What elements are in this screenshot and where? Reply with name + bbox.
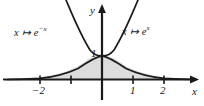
figure-exponential-curves: 1 −2 1 2 x y x ↦ e−x x ↦ ex bbox=[0, 0, 204, 106]
x-tick-label-2: 2 bbox=[160, 84, 166, 96]
y-axis-arrowhead bbox=[98, 4, 106, 13]
right-curve-annotation-base: x ↦ e bbox=[122, 26, 147, 37]
left-curve-annotation: x ↦ e−x bbox=[14, 25, 47, 38]
x-axis-label: x bbox=[192, 85, 197, 97]
left-curve-annotation-exponent: −x bbox=[39, 25, 47, 33]
y-intercept-label: 1 bbox=[91, 47, 97, 59]
x-tick-label-1: 1 bbox=[130, 84, 136, 96]
plot-canvas bbox=[0, 0, 204, 106]
left-curve-annotation-base: x ↦ e bbox=[14, 27, 39, 38]
y-axis-label: y bbox=[90, 4, 95, 16]
right-curve-annotation-exponent: x bbox=[147, 24, 150, 32]
x-tick-label--2: −2 bbox=[32, 84, 45, 96]
right-curve-annotation: x ↦ ex bbox=[122, 24, 150, 37]
